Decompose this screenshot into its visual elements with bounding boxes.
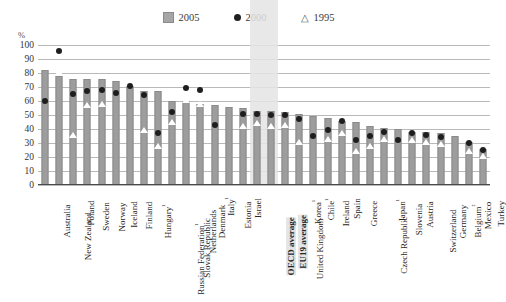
bar-2005[interactable] — [56, 76, 63, 185]
bar-group[interactable] — [377, 45, 391, 185]
marker-2000 — [339, 118, 345, 124]
bar-group[interactable] — [476, 45, 490, 185]
bar-group[interactable] — [109, 45, 123, 185]
marker-1995 — [154, 143, 162, 149]
marker-2000 — [367, 133, 373, 139]
bar-2005[interactable] — [296, 114, 303, 185]
legend-label-1995: 1995 — [314, 12, 335, 23]
marker-1995 — [55, 69, 63, 75]
bar-2005[interactable] — [140, 91, 147, 185]
x-axis-tick-label: Israel — [253, 198, 263, 218]
circle-marker-icon — [234, 14, 241, 21]
y-axis-tick-label: 10 — [25, 166, 39, 176]
marker-1995 — [324, 136, 332, 142]
y-axis-tick-label: 90 — [25, 54, 39, 64]
x-axis-tick-label: Italy¹ — [224, 197, 236, 215]
bar-group[interactable] — [405, 45, 419, 185]
x-axis-tick-label: Mexico — [483, 202, 493, 230]
x-axis-tick-label: Estonia — [242, 202, 252, 229]
bar-group[interactable] — [434, 45, 448, 185]
bar-2005[interactable] — [211, 105, 218, 185]
bar-group[interactable] — [179, 45, 193, 185]
marker-2000 — [438, 134, 444, 140]
marker-2000 — [240, 111, 246, 117]
bar-group[interactable] — [292, 45, 306, 185]
bar-group[interactable] — [349, 45, 363, 185]
marker-2000 — [381, 129, 387, 135]
marker-2000 — [197, 87, 203, 93]
bar-group[interactable] — [123, 45, 137, 185]
bar-2005[interactable] — [183, 101, 190, 185]
bar-group[interactable] — [391, 45, 405, 185]
bar-2005[interactable] — [98, 79, 105, 185]
bar-group[interactable] — [222, 45, 236, 185]
bar-2005[interactable] — [451, 136, 458, 185]
marker-2000 — [353, 137, 359, 143]
x-axis-tick-label: Turkey — [496, 201, 506, 227]
x-axis-tick-label: Poland — [86, 201, 96, 226]
bars-layer — [38, 45, 490, 185]
bar-2005[interactable] — [239, 108, 246, 185]
marker-2000 — [466, 140, 472, 146]
bar-group[interactable] — [66, 45, 80, 185]
marker-1995 — [140, 127, 148, 133]
marker-2000 — [480, 147, 486, 153]
bar-group[interactable] — [419, 45, 433, 185]
bar-group[interactable] — [278, 45, 292, 185]
marker-2000 — [127, 83, 133, 89]
bar-group[interactable] — [80, 45, 94, 185]
marker-2000 — [212, 122, 218, 128]
bar-group[interactable] — [363, 45, 377, 185]
marker-1995 — [408, 137, 416, 143]
bar-2005[interactable] — [268, 111, 275, 185]
bar-group[interactable] — [151, 45, 165, 185]
bar-group[interactable] — [335, 45, 349, 185]
bar-group[interactable] — [165, 45, 179, 185]
bar-group[interactable] — [95, 45, 109, 185]
bar-group[interactable] — [250, 45, 264, 185]
triangle-marker-icon: △ — [301, 13, 309, 23]
marker-1995 — [239, 123, 247, 129]
legend-item-1995: △ 1995 — [301, 12, 335, 23]
marker-1995 — [437, 141, 445, 147]
y-axis-tick-label: 0 — [29, 180, 38, 190]
marker-1995 — [196, 101, 204, 107]
marker-2000 — [254, 111, 260, 117]
bar-group[interactable] — [38, 45, 52, 185]
bar-2005[interactable] — [225, 107, 232, 185]
x-axis-tick-label: Spain — [352, 198, 362, 219]
bar-group[interactable] — [462, 45, 476, 185]
x-axis-tick-label: Switzerland — [448, 210, 458, 253]
bar-group[interactable] — [306, 45, 320, 185]
bar-group[interactable] — [448, 45, 462, 185]
marker-1995 — [98, 101, 106, 107]
marker-1995 — [281, 122, 289, 128]
bar-2005[interactable] — [155, 91, 162, 185]
marker-1995 — [295, 139, 303, 145]
marker-2000 — [56, 48, 62, 54]
bar-group[interactable] — [137, 45, 151, 185]
bar-2005[interactable] — [126, 86, 133, 185]
bar-group[interactable] — [52, 45, 66, 185]
bar-group[interactable] — [193, 45, 207, 185]
x-axis-tick-label: Australia — [62, 205, 72, 238]
marker-1995 — [253, 120, 261, 126]
bar-2005[interactable] — [112, 81, 119, 185]
bar-2005[interactable] — [197, 104, 204, 185]
marker-1995 — [267, 123, 275, 129]
x-axis-labels: AustraliaNew ZealandPolandSwedenNorwayIc… — [38, 188, 490, 300]
bar-group[interactable] — [208, 45, 222, 185]
marker-1995 — [69, 132, 77, 138]
plot-area: 0102030405060708090100 — [38, 45, 490, 185]
bar-2005[interactable] — [310, 116, 317, 185]
bar-group[interactable] — [321, 45, 335, 185]
bar-group[interactable] — [264, 45, 278, 185]
bar-group[interactable] — [236, 45, 250, 185]
marker-2000 — [325, 127, 331, 133]
x-axis-tick-label: Finland — [144, 202, 154, 230]
x-axis-tick-label: United Kingdom — [316, 218, 326, 279]
bar-2005[interactable] — [42, 70, 49, 185]
marker-1995 — [83, 102, 91, 108]
bar-2005[interactable] — [84, 79, 91, 185]
